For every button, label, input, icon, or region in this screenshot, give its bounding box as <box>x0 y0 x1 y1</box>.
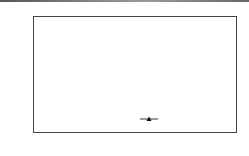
legend <box>140 117 158 122</box>
plot-frame <box>34 17 237 133</box>
line-chart <box>0 0 249 156</box>
